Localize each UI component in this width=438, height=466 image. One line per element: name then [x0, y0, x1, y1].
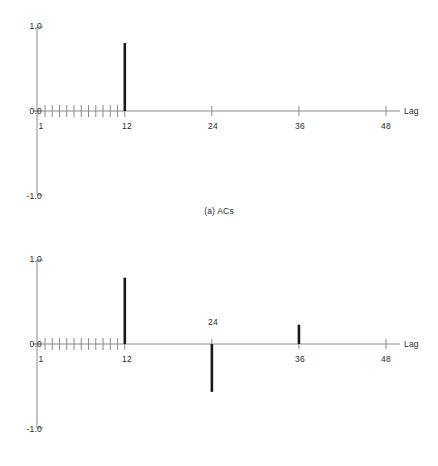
acs-xtick-24: 24 [205, 121, 221, 131]
pacs-ytick-neg1: -1.0 [4, 424, 42, 434]
pacs-xtick-48: 48 [378, 354, 394, 364]
acs-xtick-12: 12 [119, 121, 135, 131]
acs-xtick-48: 48 [378, 121, 394, 131]
acf-pacf-figure: 1.0 0.0 -1.0 1 12 24 36 48 Lag (a) ACs 1… [0, 0, 438, 466]
pacs-ytick-0: 0.0 [8, 339, 42, 349]
panel-acs: 1.0 0.0 -1.0 1 12 24 36 48 Lag (a) ACs [0, 0, 438, 233]
pacs-xtick-12: 12 [119, 354, 135, 364]
pacs-xtick-36: 36 [292, 354, 308, 364]
panel-pacs: 1.0 0.0 -1.0 1 12 24 36 48 Lag (b) PACs [0, 233, 438, 466]
pacs-plot-area [0, 233, 438, 466]
acs-ytick-0: 0.0 [8, 106, 42, 116]
pacs-inline-label-24: 24 [205, 317, 221, 327]
acs-xaxis-label: Lag [404, 106, 419, 116]
acs-ytick-1: 1.0 [8, 21, 42, 31]
pacs-xaxis-label: Lag [404, 339, 419, 349]
acs-ytick-neg1: -1.0 [4, 191, 42, 201]
pacs-xtick-1: 1 [34, 354, 48, 364]
pacs-ytick-1: 1.0 [8, 254, 42, 264]
acs-plot-area [0, 0, 438, 233]
acs-caption: (a) ACs [0, 206, 438, 216]
acs-xtick-1: 1 [34, 121, 48, 131]
acs-xtick-36: 36 [292, 121, 308, 131]
